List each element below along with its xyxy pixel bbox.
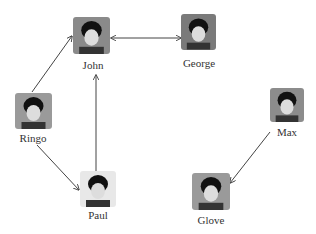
max-avatar-icon[interactable] [270, 88, 304, 122]
john-avatar-icon[interactable] [73, 17, 110, 54]
max-label: Max [257, 126, 316, 138]
george-label: George [169, 57, 229, 69]
glove-avatar-icon[interactable] [192, 173, 230, 210]
john-label: John [63, 59, 123, 71]
george-avatar-icon[interactable] [181, 14, 216, 50]
paul-label: Paul [68, 209, 128, 221]
ringo-avatar-icon[interactable] [15, 93, 52, 129]
glove-label: Glove [181, 214, 241, 226]
paul-avatar-icon[interactable] [80, 171, 116, 207]
edge-max-glove [230, 132, 270, 183]
ringo-label: Ringo [3, 132, 63, 144]
edge-ringo-paul [37, 145, 79, 190]
